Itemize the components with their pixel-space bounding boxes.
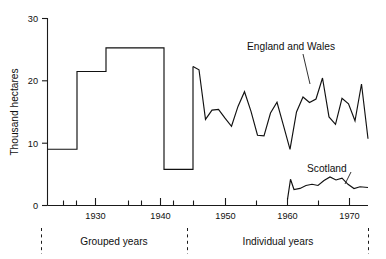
series-england-and-wales (193, 67, 368, 150)
y-tick-label-10: 10 (28, 139, 38, 149)
x-tick-label-1940: 1940 (150, 211, 170, 221)
x-tick-label-1970: 1970 (339, 211, 359, 221)
x-axis-ticks-minor (64, 201, 319, 206)
section-label-grouped-years: Grouped years (80, 236, 147, 247)
england-and-wales-leader-line (303, 54, 310, 84)
y-tick-label-20: 20 (28, 76, 38, 86)
x-tick-label-1930: 1930 (85, 211, 105, 221)
x-axis-ticks-major (96, 198, 350, 206)
y-tick-label-30: 30 (28, 14, 38, 24)
line-chart-svg: 30 20 10 0 Thousand hectares 1930 1940 (0, 0, 386, 259)
y-tick-label-0: 0 (33, 201, 38, 211)
chart-container: 30 20 10 0 Thousand hectares 1930 1940 (0, 0, 386, 259)
section-label-individual-years: Individual years (243, 236, 314, 247)
x-tick-label-1950: 1950 (215, 211, 235, 221)
series-label-england-and-wales: England and Wales (247, 41, 335, 52)
series-grouped-years-step (48, 48, 194, 170)
y-axis-ticks (42, 19, 48, 206)
x-tick-label-1960: 1960 (277, 211, 297, 221)
series-label-scotland: Scotland (307, 163, 347, 174)
series-scotland (288, 177, 369, 199)
y-axis-title: Thousand hectares (9, 68, 20, 155)
